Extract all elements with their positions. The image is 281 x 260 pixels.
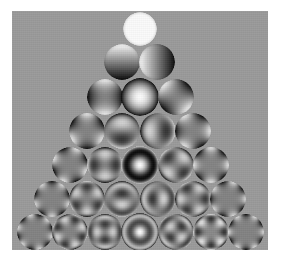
figure-panel [12,11,268,250]
zernike-mode-surface [175,181,211,217]
zernike-mode-19 [175,181,211,217]
zernike-mode-surface [158,147,194,183]
zernike-mode-surface [158,79,194,115]
zernike-mode-22 [52,214,88,250]
zernike-mode-surface [121,146,159,184]
zernike-mode-surface [52,214,88,250]
zernike-mode-14 [193,147,229,183]
zernike-mode-surface [193,214,229,250]
zernike-mode-23 [87,214,123,250]
zernike-mode-3 [87,79,123,115]
zernike-mode-surface [175,113,211,149]
zernike-mode-surface [87,79,123,115]
zernike-mode-0 [123,12,157,46]
zernike-mode-24 [121,213,159,250]
zernike-mode-surface [104,113,140,149]
zernike-mode-1 [104,44,140,80]
zernike-mode-8 [140,113,176,149]
zernike-mode-12 [121,146,159,184]
zernike-mode-surface [139,44,175,80]
zernike-mode-surface [121,78,159,116]
zernike-mode-surface [69,113,105,149]
zernike-mode-surface [34,181,70,217]
zernike-mode-27 [228,214,264,250]
zernike-mode-25 [158,214,194,250]
zernike-mode-surface [193,147,229,183]
zernike-mode-surface [104,44,140,80]
zernike-mode-5 [158,79,194,115]
zernike-mode-2 [139,44,175,80]
zernike-mode-4 [121,78,159,116]
zernike-mode-7 [104,113,140,149]
zernike-mode-21 [17,214,53,250]
zernike-mode-surface [17,214,53,250]
zernike-mode-13 [158,147,194,183]
zernike-mode-surface [121,213,159,250]
zernike-mode-surface [140,181,176,217]
zernike-mode-9 [175,113,211,149]
zernike-mode-surface [87,147,123,183]
zernike-mode-10 [52,147,88,183]
zernike-mode-surface [52,147,88,183]
zernike-mode-surface [123,12,157,46]
zernike-mode-20 [210,181,246,217]
zernike-mode-surface [104,181,140,217]
zernike-mode-surface [69,181,105,217]
zernike-mode-surface [210,181,246,217]
zernike-mode-15 [34,181,70,217]
zernike-mode-11 [87,147,123,183]
zernike-mode-surface [228,214,264,250]
zernike-mode-18 [140,181,176,217]
zernike-mode-17 [104,181,140,217]
zernike-mode-surface [87,214,123,250]
zernike-mode-16 [69,181,105,217]
zernike-mode-surface [158,214,194,250]
zernike-mode-surface [140,113,176,149]
zernike-mode-26 [193,214,229,250]
zernike-pyramid-figure [0,0,281,260]
zernike-mode-6 [69,113,105,149]
